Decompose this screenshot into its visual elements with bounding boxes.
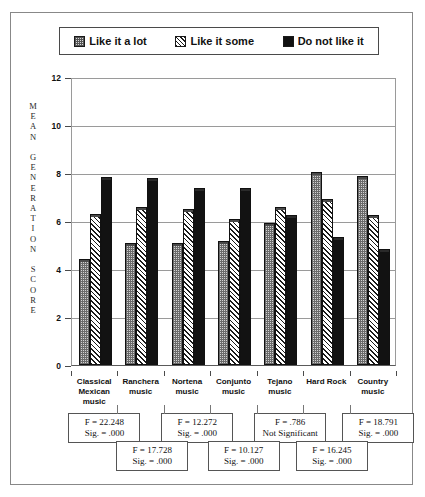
x-axis-labels: ClassicalMexicanmusicRancheramusicNorten… [71, 371, 396, 413]
x-axis-label-line: Tejano [257, 377, 303, 387]
annotation-connector [257, 405, 258, 414]
dotted-square-icon [74, 36, 85, 47]
annotation-box: F = 10.127Sig. = .000 [208, 441, 280, 471]
x-axis-label-line: Hard Rock [303, 377, 349, 387]
annotation-connector [350, 405, 351, 414]
legend-label: Do not like it [298, 35, 364, 47]
figure-frame: Like it a lot Like it some Do not like i… [10, 12, 413, 485]
bar [379, 251, 390, 365]
annotation-f-value: F = 12.272 [162, 417, 232, 428]
y-tick-label: 4 [41, 265, 61, 275]
annotation-significance: Sig. = .000 [69, 428, 139, 439]
x-axis-label: ClassicalMexicanmusic [71, 377, 117, 407]
bar [194, 190, 205, 365]
x-axis-label-line: Classical [71, 377, 117, 387]
annotation-significance: Sig. = .000 [297, 456, 367, 467]
annotation-box: F = 18.791Sig. = .000 [342, 413, 414, 443]
bar [101, 179, 112, 365]
annotation-f-value: F = 18.791 [343, 417, 413, 428]
bar [90, 216, 101, 365]
annotation-significance: Sig. = .000 [162, 428, 232, 439]
bar [264, 225, 275, 365]
bar [218, 243, 229, 365]
annotation-significance: Not Significant [255, 428, 325, 439]
annotation-connector [117, 405, 118, 414]
annotation-box: F = 12.272Sig. = .000 [161, 413, 233, 443]
x-axis-label-line: Mexican [71, 387, 117, 397]
x-axis-label-line: music [350, 387, 396, 397]
bar [357, 178, 368, 365]
annotation-connector [164, 405, 165, 414]
bar [229, 221, 240, 365]
annotation-connector [303, 405, 304, 414]
x-axis-label-line: music [210, 387, 256, 397]
x-axis-label-line: Conjunto [210, 377, 256, 387]
bar [147, 180, 158, 365]
bar-group [165, 79, 211, 365]
annotation-significance: Sig. = .000 [209, 456, 279, 467]
x-axis-label: Conjuntomusic [210, 377, 256, 397]
bar [183, 211, 194, 365]
x-tick-mark [210, 371, 211, 376]
legend-item-do-not-like-it: Do not like it [283, 35, 364, 47]
x-axis-label-line: music [117, 387, 163, 397]
annotation-significance: Sig. = .000 [343, 428, 413, 439]
bar [240, 190, 251, 365]
y-tick-label: 2 [41, 313, 61, 323]
bar [322, 201, 333, 365]
x-axis-label-line: Ranchera [117, 377, 163, 387]
x-tick-mark [117, 371, 118, 376]
x-axis-label-line: Nortena [164, 377, 210, 387]
x-tick-mark [396, 371, 397, 376]
chart-legend: Like it a lot Like it some Do not like i… [59, 27, 379, 55]
x-tick-mark [71, 371, 72, 376]
annotation-box: F = 17.728Sig. = .000 [116, 441, 188, 471]
plot-area [71, 78, 396, 366]
y-tick-label: 0 [41, 361, 61, 371]
bar [311, 174, 322, 365]
annotation-box: F = 22.248Sig. = .000 [68, 413, 140, 443]
plot-wrapper [71, 78, 396, 366]
x-axis-label-line: music [257, 387, 303, 397]
annotation-f-value: F = 22.248 [69, 417, 139, 428]
annotation-box: F = .786Not Significant [254, 413, 326, 443]
y-tick-label: 12 [41, 73, 61, 83]
bar-group [211, 79, 257, 365]
bar [125, 245, 136, 365]
x-axis-label-line: music [71, 397, 117, 407]
x-tick-mark [164, 371, 165, 376]
x-axis-label: Countrymusic [350, 377, 396, 397]
bar [286, 217, 297, 365]
bar [275, 209, 286, 365]
bar-group [118, 79, 164, 365]
x-tick-mark [350, 371, 351, 376]
legend-label: Like it some [190, 35, 254, 47]
x-tick-mark [257, 371, 258, 376]
x-axis-label-line: Country [350, 377, 396, 387]
bar [368, 217, 379, 365]
annotation-connector [210, 405, 211, 414]
bar [172, 245, 183, 365]
bar-group [351, 79, 396, 365]
y-axis-ticks: 024681012 [35, 78, 71, 366]
x-axis-label-line: music [164, 387, 210, 397]
y-tick-label: 8 [41, 169, 61, 179]
bar-group [72, 79, 118, 365]
bar [136, 209, 147, 365]
legend-label: Like it a lot [89, 35, 146, 47]
x-axis-label: Nortenamusic [164, 377, 210, 397]
annotation-box: F = 16.245Sig. = .000 [296, 441, 368, 471]
bar [79, 261, 90, 365]
y-tick-label: 10 [41, 121, 61, 131]
x-axis-label: Hard Rock [303, 377, 349, 387]
annotation-significance: Sig. = .000 [117, 456, 187, 467]
y-tick-mark [65, 366, 71, 367]
x-axis-label: Rancheramusic [117, 377, 163, 397]
bar-group [304, 79, 350, 365]
solid-square-icon [283, 36, 294, 47]
bar [333, 239, 344, 365]
legend-item-like-it-a-lot: Like it a lot [74, 35, 146, 47]
annotation-f-value: F = .786 [255, 417, 325, 428]
annotation-f-value: F = 17.728 [117, 445, 187, 456]
x-axis-label: Tejanomusic [257, 377, 303, 397]
